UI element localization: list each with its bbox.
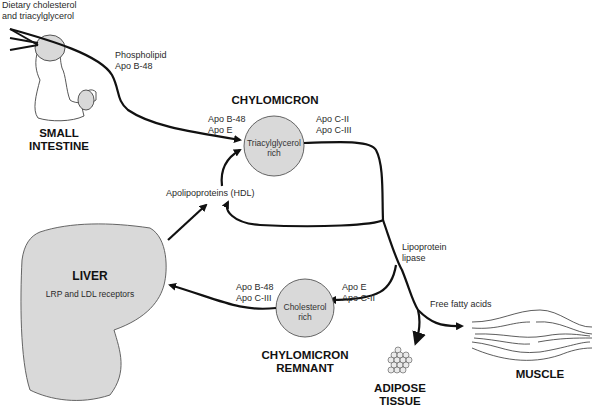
adipose-line1: ADIPOSE xyxy=(365,382,435,395)
chylomicron-diagram: Dietary cholesterol and triacylglycerol … xyxy=(0,0,599,414)
chylomicron-apo-right: Apo C-II Apo C-III xyxy=(316,114,352,136)
hdl-label: Apolipoproteins (HDL) xyxy=(166,188,255,199)
dietary-line2: and triacylglycerol xyxy=(2,11,77,22)
chylomicron-inner-1: Triacylglycerol xyxy=(244,138,304,148)
chylomicron-apo-right-1: Apo C-II xyxy=(316,114,352,125)
chylomicron-apo-right-2: Apo C-III xyxy=(316,125,352,136)
remnant-apo-right: Apo E Apo C-II xyxy=(342,282,375,304)
remnant-apo-right-2: Apo C-II xyxy=(342,293,375,304)
lpl-line1: Lipoprotein xyxy=(402,242,447,253)
chylomicron-inner-label: Triacylglycerol rich xyxy=(244,138,304,158)
adipose-line2: TISSUE xyxy=(365,395,435,408)
chylomicron-apo-left-1: Apo B-48 xyxy=(208,114,246,125)
liver-shape xyxy=(21,224,166,401)
remnant-title-1: CHYLOMICRON xyxy=(255,349,355,362)
liver-subtitle: LRP and LDL receptors xyxy=(40,289,140,300)
phospholipid-label: Phospholipid Apo B-48 xyxy=(115,50,167,72)
chylomicron-title: CHYLOMICRON xyxy=(230,94,320,107)
adipose-cells xyxy=(388,347,412,373)
remnant-inner-2: rich xyxy=(275,312,335,322)
chylomicron-apo-left: Apo B-48 Apo E xyxy=(208,114,246,136)
small-intestine-shape xyxy=(35,35,96,121)
remnant-apo-right-1: Apo E xyxy=(342,282,375,293)
adipose-label: ADIPOSE TISSUE xyxy=(365,382,435,408)
small-intestine-label: SMALL INTESTINE xyxy=(14,127,104,153)
phospholipid-line2: Apo B-48 xyxy=(115,61,167,72)
dietary-label: Dietary cholesterol and triacylglycerol xyxy=(2,0,77,22)
muscle-fibers xyxy=(472,310,592,360)
remnant-inner-1: Cholesterol xyxy=(275,302,335,312)
muscle-label: MUSCLE xyxy=(505,368,575,381)
lpl-label: Lipoprotein lipase xyxy=(402,242,447,264)
remnant-title: CHYLOMICRON REMNANT xyxy=(255,349,355,375)
chylomicron-inner-2: rich xyxy=(244,148,304,158)
lpl-line2: lipase xyxy=(402,253,447,264)
liver-title: LIVER xyxy=(50,270,130,283)
phospholipid-line1: Phospholipid xyxy=(115,50,167,61)
remnant-apo-left-2: Apo C-III xyxy=(236,293,274,304)
ffa-label: Free fatty acids xyxy=(430,299,492,310)
remnant-title-2: REMNANT xyxy=(255,362,355,375)
remnant-apo-left: Apo B-48 Apo C-III xyxy=(236,282,274,304)
dietary-line1: Dietary cholesterol xyxy=(2,0,77,11)
chylomicron-apo-left-2: Apo E xyxy=(208,125,246,136)
small-intestine-line1: SMALL xyxy=(14,127,104,140)
remnant-apo-left-1: Apo B-48 xyxy=(236,282,274,293)
remnant-inner-label: Cholesterol rich xyxy=(275,302,335,322)
small-intestine-line2: INTESTINE xyxy=(14,140,104,153)
